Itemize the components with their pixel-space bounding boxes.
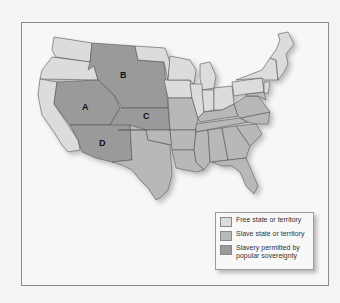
legend-label: Slave state or territory (236, 230, 304, 238)
legend-item-slave: Slave state or territory (220, 230, 309, 241)
region-florida (212, 158, 258, 194)
region-iowa (164, 80, 192, 98)
label-c: C (143, 111, 150, 121)
label-b: B (120, 70, 127, 80)
slave-swatch-icon (220, 231, 232, 241)
popular-sovereignty-swatch-icon (220, 245, 232, 255)
free-swatch-icon (220, 217, 232, 227)
region-wisconsin (168, 56, 196, 84)
legend-label: Slavery permitted by popular sovereignty (236, 244, 309, 260)
label-d: D (99, 138, 106, 148)
region-indiana (202, 90, 214, 112)
label-a: A (82, 102, 89, 112)
legend-item-free: Free state or territory (220, 216, 309, 227)
region-arkansas (170, 130, 196, 150)
legend-item-popular-sovereignty: Slavery permitted by popular sovereignty (220, 244, 309, 260)
region-new-jersey (264, 82, 270, 94)
legend-label: Free state or territory (236, 216, 301, 224)
map-legend: Free state or territory Slave state or t… (215, 212, 314, 270)
region-new-york (236, 58, 278, 80)
